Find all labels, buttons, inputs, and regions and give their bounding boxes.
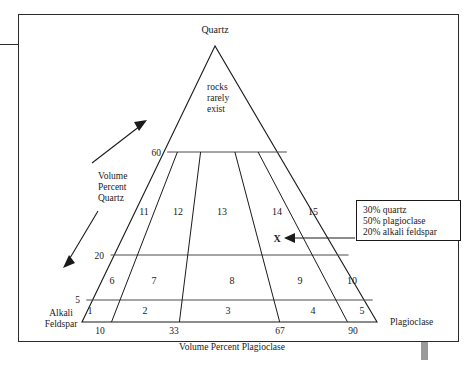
field-number-3: 3 [226, 305, 231, 316]
bottom-gray-marker [421, 342, 428, 360]
field-number-9: 9 [298, 275, 303, 286]
field-number-2: 2 [143, 305, 148, 316]
field-number-14: 14 [272, 206, 282, 217]
plagioclase-tick-33: 33 [169, 326, 179, 336]
callout-line-quartz: 30% quartz [363, 205, 407, 215]
apex-note-line3: exist [207, 104, 225, 114]
quartz-tick-5: 5 [75, 295, 80, 305]
quartz-decrease-arrow-head [63, 255, 75, 268]
plagioclase-tick-10: 10 [95, 326, 105, 336]
plagioclase-90-divider [258, 152, 347, 322]
callout-line-plagioclase: 50% plagioclase [363, 216, 426, 226]
sample-point-x-label: X [273, 233, 281, 244]
plagioclase-tick-90: 90 [348, 326, 358, 336]
apex-note-line1: rocks [207, 82, 228, 92]
field-number-1: 1 [88, 305, 93, 316]
vertex-label-alkali-line2: Feldspar [45, 319, 79, 329]
field-number-6: 6 [110, 275, 115, 286]
callout-line-alkali-feldspar: 20% alkali feldspar [363, 227, 438, 237]
field-number-11: 11 [139, 206, 149, 217]
vertex-label-quartz: Quartz [201, 24, 229, 35]
page-frame [19, 15, 459, 342]
bottom-axis-label: Volume Percent Plagioclase [179, 342, 285, 352]
left-axis-label-line2: Percent [98, 182, 127, 192]
vertex-label-plagioclase: Plagioclase [390, 317, 433, 327]
vertex-label-alkali-line1: Alkali [49, 308, 73, 318]
field-number-4: 4 [311, 305, 316, 316]
plagioclase-tick-67: 67 [275, 326, 285, 336]
plagioclase-33-divider [179, 152, 200, 322]
field-number-15: 15 [308, 206, 318, 217]
quartz-tick-20: 20 [95, 251, 105, 261]
left-axis-label-line3: Quartz [98, 193, 124, 203]
field-number-7: 7 [152, 275, 157, 286]
qap-ternary-diagram-figure: Quartz Alkali Feldspar Plagioclase rocks… [0, 0, 468, 375]
callout-leader-arrow-head [284, 233, 295, 243]
field-number-12: 12 [173, 206, 183, 217]
diagram-canvas: Quartz Alkali Feldspar Plagioclase rocks… [0, 0, 468, 375]
field-number-13: 13 [217, 206, 227, 217]
quartz-tick-60: 60 [152, 148, 162, 158]
left-axis-label-line1: Volume [98, 171, 127, 181]
field-number-8: 8 [230, 275, 235, 286]
field-number-5: 5 [360, 305, 365, 316]
apex-note-line2: rarely [207, 93, 229, 103]
quartz-increase-arrow-shaft [92, 126, 140, 163]
field-number-10: 10 [347, 275, 357, 286]
